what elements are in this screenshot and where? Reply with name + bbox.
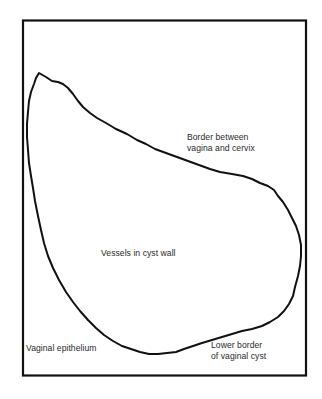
cyst-outline [27, 73, 301, 354]
label-border-vagina-cervix: Border between vagina and cervix [187, 132, 255, 154]
label-vessels-in-cyst-wall: Vessels in cyst wall [101, 248, 176, 259]
label-lower-border-cyst: Lower border of vaginal cyst [211, 340, 266, 362]
label-vaginal-epithelium: Vaginal epithelium [26, 343, 97, 354]
label-lower-border-line2: of vaginal cyst [211, 351, 266, 362]
cyst-diagram [0, 0, 322, 399]
frame-border [23, 21, 306, 376]
label-lower-border-line1: Lower border [211, 340, 266, 351]
label-border-line2: vagina and cervix [187, 143, 255, 154]
label-border-line1: Border between [187, 132, 255, 143]
